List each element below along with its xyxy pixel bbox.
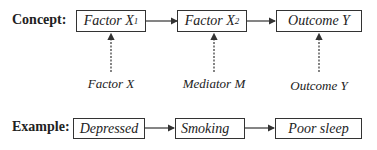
poor-sleep-box: Poor sleep — [275, 118, 362, 139]
factor-x2-box: Factor X2 — [177, 10, 247, 32]
factor-x1-text: Factor X — [84, 13, 134, 29]
concept-label: Concept: — [12, 12, 66, 28]
outcome-y-text: Outcome Y — [288, 13, 350, 29]
factor-x2-text: Factor X — [185, 13, 235, 29]
role-mediator-m: Mediator M — [164, 76, 264, 92]
example-label: Example: — [12, 119, 70, 135]
factor-x1-sub: 1 — [134, 16, 139, 26]
depressed-box: Depressed — [73, 118, 145, 139]
outcome-y-box: Outcome Y — [276, 10, 362, 32]
smoking-box: Smoking — [175, 118, 245, 139]
factor-x2-sub: 2 — [235, 16, 240, 26]
role-outcome-y: Outcome Y — [269, 78, 369, 94]
role-factor-x: Factor X — [61, 76, 161, 92]
factor-x1-box: Factor X1 — [76, 10, 146, 32]
